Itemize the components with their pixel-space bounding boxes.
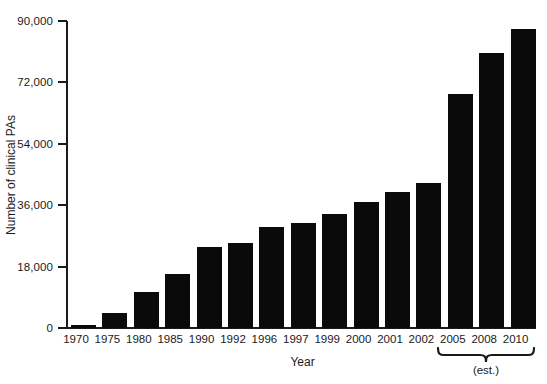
bar-rect-1970 — [71, 325, 96, 328]
bar-rect-1999 — [322, 214, 347, 328]
bar-rect-1985 — [165, 274, 190, 328]
y-tick-label-72000: 72,000 — [17, 76, 53, 88]
y-tick-label-36000: 36,000 — [17, 199, 53, 211]
y-tick-54000: 54,000 — [58, 143, 67, 145]
bar-rect-1996 — [259, 227, 284, 328]
bar-rect-2008 — [479, 53, 504, 328]
bar-rect-2001 — [385, 192, 410, 328]
y-tick-label-54000: 54,000 — [17, 138, 53, 150]
bar-rect-2010 — [511, 29, 536, 328]
bar-rect-1980 — [134, 292, 159, 328]
estimate-label: (est.) — [436, 364, 536, 376]
bar-rect-1975 — [102, 313, 127, 328]
bar-rect-1992 — [228, 243, 253, 328]
y-tick-label-18000: 18,000 — [17, 261, 53, 273]
bar-rect-1997 — [291, 223, 316, 328]
bar-rect-2002 — [416, 183, 441, 328]
y-tick-18000: 18,000 — [58, 266, 67, 268]
y-tick-label-90000: 90,000 — [17, 15, 53, 27]
bar-rect-2005 — [448, 94, 473, 328]
x-axis-title-text: Year — [290, 355, 314, 369]
estimate-brace-icon — [436, 347, 536, 363]
y-tick-90000: 90,000 — [58, 20, 67, 22]
x-tick-label-2010: 2010 — [496, 333, 536, 345]
y-tick-0: 0 — [58, 327, 67, 329]
y-tick-72000: 72,000 — [58, 81, 67, 83]
y-tick-label-0: 0 — [47, 322, 54, 334]
plot-area — [68, 21, 536, 328]
chart-figure: Number of clinical PAs 018,00036,00054,0… — [0, 0, 547, 384]
bar-rect-2000 — [354, 202, 379, 328]
y-axis-title: Number of clinical PAs — [0, 21, 22, 329]
bar-rect-1990 — [197, 247, 222, 328]
y-tick-36000: 36,000 — [58, 204, 67, 206]
